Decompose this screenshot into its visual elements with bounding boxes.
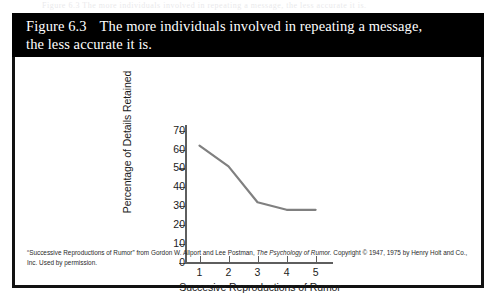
figure-caption-text-1: The more individuals involved in repeati… — [100, 18, 423, 34]
x-axis-tick-label: 3 — [248, 266, 268, 278]
figure-body: Percentage of Details Retained 010203040… — [12, 57, 484, 288]
figure-header: Figure 6.3The more individuals involved … — [12, 13, 484, 57]
credit-italic-title: The Psychology of Rumor. — [256, 249, 331, 256]
x-axis-title: Succesive Reproductions of Rumor — [135, 281, 385, 293]
page-bleed-text: Figure 6.3 The more individuals involved… — [0, 0, 497, 12]
x-axis-tick-label: 1 — [190, 266, 210, 278]
figure-caption-line-1: Figure 6.3The more individuals involved … — [26, 17, 470, 35]
x-axis-tick-label: 5 — [306, 266, 326, 278]
data-series-line — [200, 146, 316, 210]
chart-area: Percentage of Details Retained 010203040… — [15, 57, 481, 247]
figure-caption-line-2: the less accurate it is. — [26, 35, 470, 53]
figure-number: Figure 6.3 — [26, 18, 87, 34]
credit-part-1: “Successive Reproductions of Rumor” from… — [27, 249, 256, 256]
figure-container: Figure 6.3The more individuals involved … — [12, 13, 484, 288]
x-axis-tick-label: 2 — [219, 266, 239, 278]
plot-svg — [15, 57, 481, 247]
source-credit: “Successive Reproductions of Rumor” from… — [27, 248, 471, 267]
x-axis-tick-label: 4 — [277, 266, 297, 278]
